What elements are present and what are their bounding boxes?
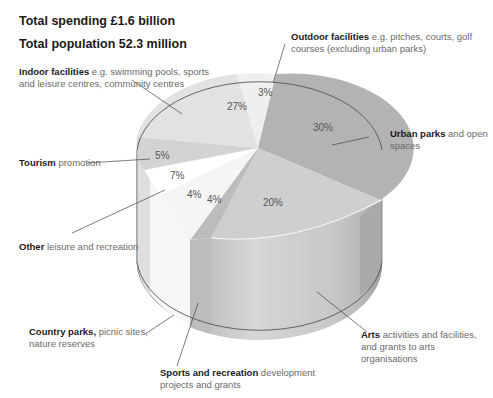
pct-outdoor: 3% [258, 87, 273, 98]
label-outdoor: Outdoor facilities e.g. pitches, courts,… [291, 31, 472, 55]
pct-urban: 30% [313, 122, 333, 133]
pct-country: 4% [187, 189, 202, 200]
sports-side [190, 238, 211, 334]
label-arts: Arts activities and facilities, and gran… [361, 329, 493, 365]
label-sports: Sports and recreation development projec… [160, 367, 315, 391]
pct-other: 7% [170, 170, 185, 181]
label-indoor: Indoor facilities e.g. swimming pools, s… [19, 66, 209, 90]
pct-sports: 4% [207, 194, 222, 205]
pct-indoor: 27% [227, 101, 247, 112]
pct-arts: 20% [263, 197, 283, 208]
label-country-parks: Country parks, picnic sites, nature rese… [29, 326, 148, 350]
pct-tourism: 5% [155, 150, 170, 161]
label-tourism: Tourism promotion [19, 157, 101, 169]
label-urban: Urban parks and open spaces [390, 128, 488, 152]
label-other: Other leisure and recreation [19, 241, 138, 253]
